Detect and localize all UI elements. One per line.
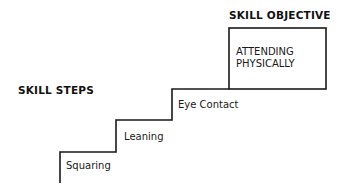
objective-text-line2: PHYSICALLY <box>236 58 295 70</box>
step-label-squaring: Squaring <box>66 160 111 171</box>
objective-text-line1: ATTENDING <box>236 46 295 58</box>
objective-text: ATTENDING PHYSICALLY <box>236 46 295 70</box>
step-label-eye-contact: Eye Contact <box>178 99 238 110</box>
skill-steps-heading: SKILL STEPS <box>18 84 94 96</box>
step-label-leaning: Leaning <box>124 131 163 142</box>
skill-objective-heading: SKILL OBJECTIVE <box>229 9 331 21</box>
